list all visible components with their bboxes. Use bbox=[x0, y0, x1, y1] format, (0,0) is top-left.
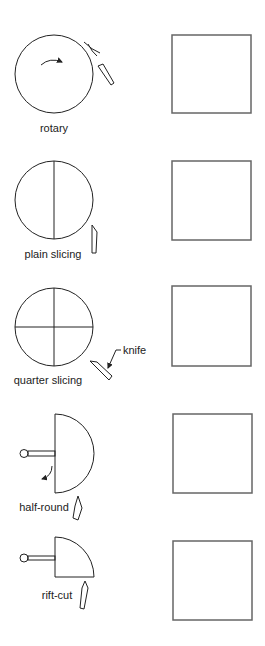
method-label: half-round bbox=[19, 501, 69, 513]
quarter-log bbox=[55, 537, 94, 577]
stay-log-shaft bbox=[28, 556, 55, 560]
plain-slicing-method: plain slicing bbox=[15, 161, 97, 260]
rift-cut-method: rift-cut bbox=[20, 537, 94, 609]
veneer-square bbox=[173, 414, 252, 493]
veneer-square bbox=[172, 161, 251, 240]
quarter-slicing-method: knife quarter slicing bbox=[14, 288, 146, 386]
stay-log-pivot bbox=[20, 554, 28, 562]
veneer-square bbox=[173, 541, 252, 620]
stay-log-shaft bbox=[28, 451, 55, 456]
half-round-log bbox=[55, 414, 94, 493]
veneer-square bbox=[172, 286, 251, 366]
method-label: rotary bbox=[40, 122, 69, 134]
half-round-method: half-round bbox=[19, 414, 94, 520]
rotary-method: rotary bbox=[15, 35, 114, 134]
method-label: plain slicing bbox=[25, 248, 82, 260]
method-label: quarter slicing bbox=[14, 374, 82, 386]
knife-icon bbox=[90, 361, 112, 380]
stay-log-pivot bbox=[20, 450, 28, 458]
knife-icon bbox=[92, 225, 97, 253]
rotation-arrow-icon bbox=[41, 60, 62, 65]
veneer-cutting-diagram: rotary plain slicing knife quarter slici… bbox=[0, 0, 265, 646]
rotation-arrow-icon bbox=[42, 466, 52, 479]
veneer-square bbox=[172, 35, 251, 113]
knife-callout-label: knife bbox=[123, 344, 146, 356]
callout-arrow-icon bbox=[108, 350, 121, 368]
knife-icon bbox=[98, 64, 114, 85]
knife-icon bbox=[73, 496, 82, 520]
rotary-log-circle bbox=[15, 35, 93, 113]
method-label: rift-cut bbox=[42, 589, 73, 601]
knife-icon bbox=[80, 581, 88, 609]
